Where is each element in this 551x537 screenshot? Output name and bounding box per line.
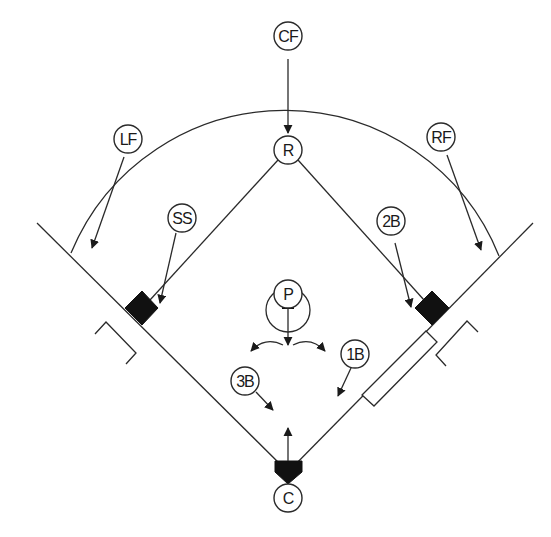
running-lane: [362, 331, 437, 406]
lf-arrow: [92, 157, 124, 248]
first-base-coach-box: [436, 321, 478, 366]
ss-arrow: [160, 233, 176, 303]
position-rf: RF: [427, 123, 455, 151]
home-plate: [275, 461, 302, 484]
basepath-second-to-third: [150, 160, 278, 300]
position-label: 2B: [382, 213, 400, 230]
position-2b: 2B: [377, 207, 405, 235]
position-label: R: [283, 142, 294, 159]
rf-arrow: [447, 155, 481, 250]
position-label: 1B: [346, 346, 364, 363]
position-ss: SS: [168, 204, 196, 232]
position-r: R: [274, 136, 302, 164]
pitcher-right-arrow: [293, 342, 325, 351]
position-label: SS: [172, 210, 192, 227]
position-label: P: [283, 286, 293, 303]
position-3b: 3B: [231, 367, 259, 395]
position-p: P: [274, 280, 302, 308]
position-cf: CF: [274, 22, 302, 50]
basepath-second-to-first: [298, 160, 424, 300]
position-c: C: [274, 484, 302, 512]
pitcher-left-arrow: [251, 342, 283, 351]
position-label: 3B: [236, 373, 254, 390]
position-1b: 1B: [341, 340, 369, 368]
position-label: C: [283, 490, 294, 507]
position-lf: LF: [114, 125, 142, 153]
third-base-coach-box: [95, 322, 136, 364]
position-label: LF: [120, 131, 138, 148]
2b-arrow: [395, 243, 411, 307]
baseball-field-diagram: CF R LF RF SS 2B P 1B 3B C: [0, 0, 551, 537]
position-label: RF: [431, 129, 452, 146]
1b-arrow: [338, 368, 351, 396]
position-label: CF: [278, 28, 299, 45]
3b-arrow: [256, 392, 273, 410]
left-foul-line: [37, 223, 288, 472]
